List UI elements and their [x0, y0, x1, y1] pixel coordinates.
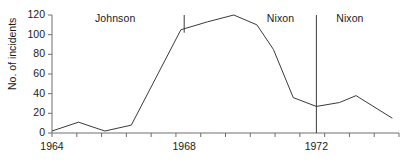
x-axis-tick-label: 1964 — [22, 140, 82, 152]
chart-container: No. of incidents 02040608010012019641968… — [0, 0, 406, 168]
y-axis-tick-label: 0 — [0, 126, 45, 138]
y-axis-tick-label: 80 — [0, 47, 45, 59]
y-axis-tick-label: 40 — [0, 87, 45, 99]
y-axis-tick-label: 60 — [0, 67, 45, 79]
johnson-label: Johnson — [95, 12, 135, 24]
data-line-incidents — [52, 15, 392, 131]
x-axis-tick-label: 1972 — [286, 140, 346, 152]
y-axis-tick-label: 120 — [0, 8, 45, 20]
nixon-label-first: Nixon — [267, 12, 294, 24]
nixon-label-second: Nixon — [336, 12, 363, 24]
y-axis-tick-label: 100 — [0, 28, 45, 40]
x-axis-tick-label: 1968 — [154, 140, 214, 152]
y-axis-tick-label: 20 — [0, 106, 45, 118]
